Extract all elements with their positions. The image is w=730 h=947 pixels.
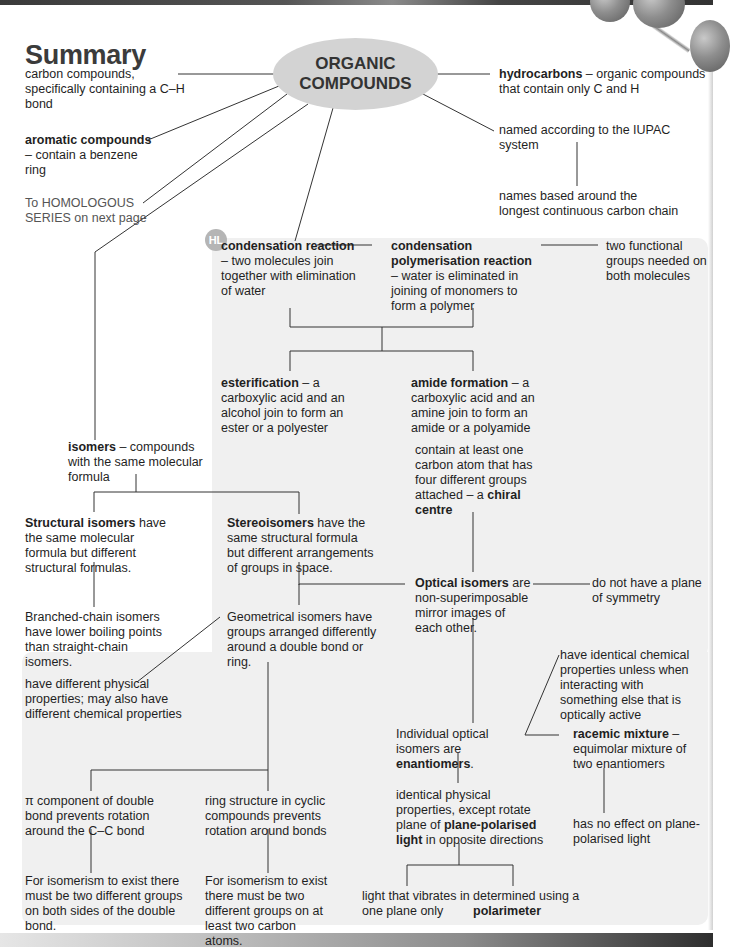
- node-identical-chemical: have identical chemical properties unles…: [560, 648, 700, 723]
- link-homologous-series[interactable]: To HOMOLOGOUS SERIES on next page: [25, 196, 150, 226]
- node-ring-structure: ring structure in cyclic compounds preve…: [205, 794, 340, 839]
- node-no-effect: has no effect on plane-polarised light: [573, 817, 713, 847]
- node-polarimeter: determined using a polarimeter: [473, 889, 583, 919]
- node-hydrocarbons: hydrocarbons – organic compounds that co…: [499, 67, 709, 97]
- node-identical-physical: identical physical properties, except ro…: [396, 788, 546, 848]
- node-one-plane: light that vibrates in one plane only: [362, 889, 472, 919]
- node-isomers: isomers – compounds with the same molecu…: [68, 440, 208, 485]
- node-ring-requirement: For isomerism to exist there must be two…: [205, 874, 335, 947]
- node-racemic-mixture: racemic mixture – equimolar mixture of t…: [573, 727, 703, 772]
- node-stereoisomers: Stereoisomers have the same structural f…: [227, 516, 377, 576]
- node-branched-chain: Branched-chain isomers have lower boilin…: [25, 610, 175, 670]
- node-chiral-centre: contain at least one carbon atom that ha…: [415, 443, 550, 518]
- node-amide-formation: amide formation – a carboxylic acid and …: [411, 376, 556, 436]
- node-esterification: esterification – a carboxylic acid and a…: [221, 376, 366, 436]
- node-structural-isomers: Structural isomers have the same molecul…: [25, 516, 170, 576]
- node-geometrical-isomers: Geometrical isomers have groups arranged…: [227, 610, 387, 670]
- node-pi-component: π component of double bond prevents rota…: [25, 794, 170, 839]
- node-carbon-compounds: carbon compounds, specifically containin…: [25, 67, 185, 112]
- node-aromatic-compounds: aromatic compounds – contain a benzene r…: [25, 133, 155, 178]
- node-double-bond-requirement: For isomerism to exist there must be two…: [25, 874, 190, 934]
- node-no-symmetry: do not have a plane of symmetry: [592, 576, 712, 606]
- page-edge-shadow: [708, 60, 713, 930]
- bottom-border-bar: [0, 933, 713, 947]
- node-longest-chain: names based around the longest continuou…: [499, 189, 679, 219]
- organic-compounds-node: ORGANICCOMPOUNDS: [273, 38, 438, 110]
- node-condensation-reaction: condensation reaction – two molecules jo…: [221, 239, 356, 299]
- node-condensation-polymerisation: condensation polymerisation reaction – w…: [391, 239, 541, 314]
- node-enantiomers: Individual optical isomers are enantiome…: [396, 727, 526, 772]
- node-iupac: named according to the IUPAC system: [499, 123, 709, 153]
- node-optical-isomers: Optical isomers are non-superimposable m…: [415, 576, 535, 636]
- node-different-properties: have different physical properties; may …: [25, 677, 195, 722]
- node-functional-groups: two functional groups needed on both mol…: [606, 239, 711, 284]
